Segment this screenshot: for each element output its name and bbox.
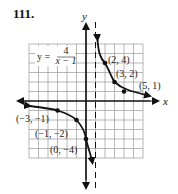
point-label: (−3, −1) xyxy=(16,113,49,125)
svg-text:x − 1: x − 1 xyxy=(54,55,76,66)
equation-lhs: y = xyxy=(37,51,51,62)
rational-function-graph: y = 4 x − 1 x y (2, 4) (3, 2) (5, 1) (−3… xyxy=(0,0,178,194)
x-axis-label: x xyxy=(162,95,168,107)
point-label: (−1, −2) xyxy=(35,128,68,140)
y-axis-label: y xyxy=(81,10,87,22)
point-label: (5, 1) xyxy=(139,80,161,92)
point-label: (3, 2) xyxy=(116,68,138,80)
point-label: (2, 4) xyxy=(108,54,130,66)
point-label: (0, −4) xyxy=(50,144,77,156)
